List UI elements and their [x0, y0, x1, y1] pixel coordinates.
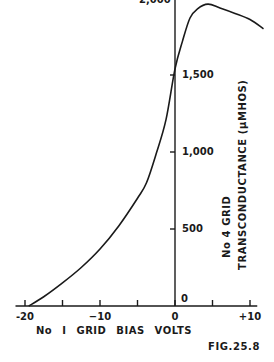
x-tick-label: +10: [239, 312, 261, 322]
y-tick-label: 2,000: [139, 0, 171, 5]
transconductance-curve: [29, 4, 264, 306]
figure-label: FIG.25.8: [208, 342, 260, 352]
x-tick-label: 0: [172, 312, 179, 322]
y-tick-label: 1,500: [182, 70, 214, 80]
y-tick-label: 500: [182, 224, 203, 234]
y-tick-label: 1,000: [182, 147, 214, 157]
y-tick-label: 0: [181, 294, 188, 304]
transconductance-chart: [0, 0, 274, 362]
y-axis-label-line1: No 4 GRID: [222, 196, 232, 259]
x-tick-label: −10: [89, 312, 111, 322]
x-axis-label: No I GRID BIAS VOLTS: [36, 326, 192, 336]
x-tick-label: -20: [16, 312, 34, 322]
y-axis-label-line2: TRANSCONDUCTANCE (μMHOS): [238, 79, 248, 270]
axes: [16, 0, 258, 306]
